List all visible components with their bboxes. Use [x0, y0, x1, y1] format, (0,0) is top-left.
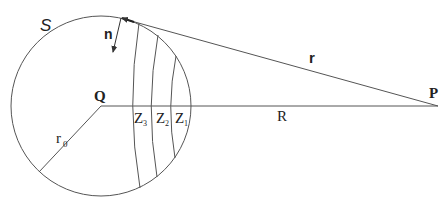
- label-normal-n: n: [104, 26, 113, 42]
- label-r0: r 0: [56, 130, 68, 149]
- label-distance-r: R: [277, 108, 287, 124]
- svg-text:0: 0: [63, 139, 68, 149]
- fresnel-zone-diagram: S n r Q P R r 0 Z 3 Z 2 Z 1: [0, 0, 448, 209]
- svg-text:3: 3: [143, 119, 147, 128]
- radius-r0-line: [39, 106, 101, 172]
- label-zone-3: Z 3: [134, 110, 147, 128]
- svg-text:2: 2: [165, 119, 169, 128]
- tangent-arrow: [122, 18, 134, 22]
- svg-text:Z: Z: [156, 110, 165, 126]
- label-center-q: Q: [94, 88, 106, 104]
- label-point-p: P: [429, 85, 438, 101]
- zone-boundary-1: [171, 56, 176, 158]
- svg-text:r: r: [56, 130, 61, 146]
- svg-text:Z: Z: [134, 110, 143, 126]
- svg-text:Z: Z: [175, 110, 184, 126]
- label-zone-2: Z 2: [156, 110, 169, 128]
- label-r: r: [309, 49, 315, 66]
- normal-n-arrow: [113, 18, 121, 52]
- label-zone-1: Z 1: [175, 110, 188, 128]
- svg-text:1: 1: [184, 119, 188, 128]
- label-surface-s: S: [40, 16, 52, 35]
